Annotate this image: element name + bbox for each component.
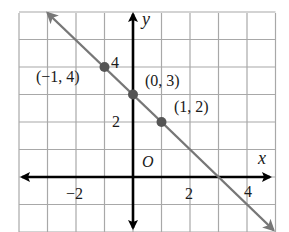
labels: y x O −2 2 4 2 4 (−1, 4) (0, 3) (1, 2) [36,9,266,202]
point-label-0-3: (0, 3) [145,72,180,90]
coordinate-plane: y x O −2 2 4 2 4 (−1, 4) (0, 3) (1, 2) [0,0,289,232]
data-point [100,62,110,72]
y-tick-label-2: 2 [112,113,120,130]
point-label-neg1-4: (−1, 4) [36,68,80,86]
axes [22,14,270,228]
origin-label: O [142,153,154,170]
y-tick-label-4: 4 [111,54,119,71]
x-tick-label-neg2: −2 [66,185,83,202]
x-axis-label: x [257,148,266,168]
y-axis-label: y [140,9,150,29]
x-tick-label-2: 2 [185,185,193,202]
grid [19,12,276,232]
data-point [157,117,167,127]
x-tick-label-4: 4 [244,183,252,200]
point-label-1-2: (1, 2) [174,98,209,116]
data-point [128,90,138,100]
